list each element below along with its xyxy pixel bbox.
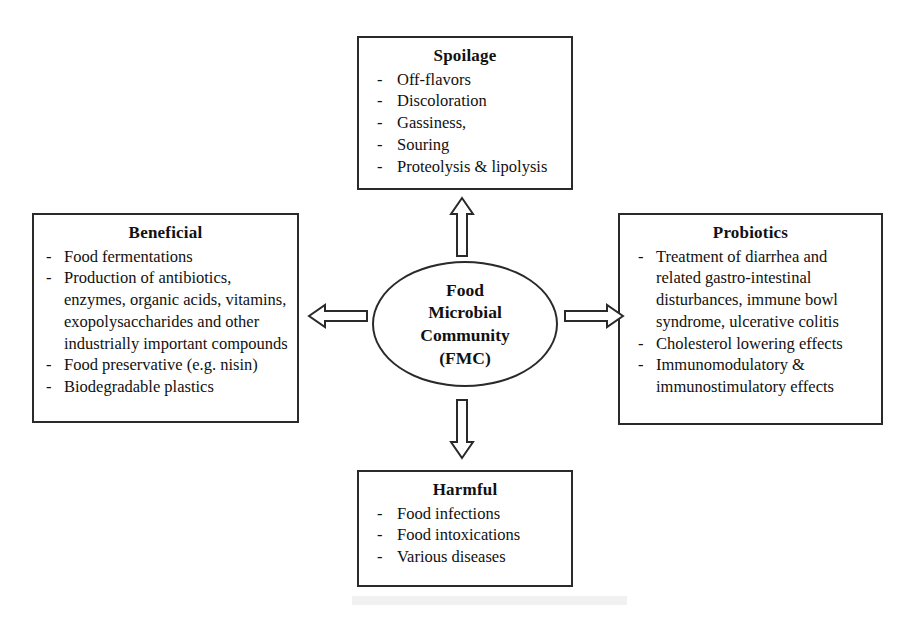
bullet-marker-icon: -	[377, 90, 383, 112]
diagram-canvas: Spoilage - Off-flavors - Discoloration -…	[0, 0, 910, 628]
node-box-probiotics: Probiotics - Treatment of diarrhea and r…	[618, 213, 883, 425]
bullet-marker-icon: -	[377, 69, 383, 91]
bullet-list-beneficial: - Food fermentations - Production of ant…	[42, 246, 289, 398]
bullet-marker-icon: -	[46, 354, 52, 376]
list-item-label: Various diseases	[397, 547, 506, 566]
node-box-spoilage: Spoilage - Off-flavors - Discoloration -…	[357, 36, 573, 190]
bullet-marker-icon: -	[638, 333, 644, 355]
bullet-marker-icon: -	[377, 546, 383, 568]
list-item: - Food preservative (e.g. nisin)	[42, 354, 289, 376]
list-item-label: Cholesterol lowering effects	[656, 334, 843, 353]
bullet-marker-icon: -	[46, 376, 52, 398]
list-item: - Proteolysis & lipolysis	[367, 156, 563, 178]
node-box-harmful: Harmful - Food infections - Food intoxic…	[357, 470, 573, 587]
list-item-label: Gassiness,	[397, 113, 466, 132]
list-item: - Biodegradable plastics	[42, 376, 289, 398]
bullet-marker-icon: -	[377, 112, 383, 134]
list-item: - Off-flavors	[367, 69, 563, 91]
bullet-list-harmful: - Food infections - Food intoxications -…	[367, 503, 563, 568]
list-item-label: Production of antibiotics, enzymes, orga…	[64, 268, 288, 352]
node-title-harmful: Harmful	[367, 480, 563, 500]
bullet-marker-icon: -	[377, 134, 383, 156]
list-item: - Treatment of diarrhea and related gast…	[628, 246, 873, 333]
bullet-marker-icon: -	[638, 246, 644, 268]
bullet-marker-icon: -	[46, 246, 52, 268]
bullet-marker-icon: -	[377, 524, 383, 546]
bullet-list-probiotics: - Treatment of diarrhea and related gast…	[628, 246, 873, 398]
caption-scan-artifact	[352, 596, 627, 605]
bullet-marker-icon: -	[46, 267, 52, 289]
bullet-marker-icon: -	[377, 503, 383, 525]
arrow-left-icon	[307, 303, 369, 329]
list-item-label: Proteolysis & lipolysis	[397, 157, 547, 176]
node-box-beneficial: Beneficial - Food fermentations - Produc…	[32, 213, 299, 423]
list-item: - Food infections	[367, 503, 563, 525]
bullet-list-spoilage: - Off-flavors - Discoloration - Gassines…	[367, 69, 563, 178]
list-item-label: Souring	[397, 135, 449, 154]
list-item: - Production of antibiotics, enzymes, or…	[42, 267, 289, 354]
list-item: - Discoloration	[367, 90, 563, 112]
bullet-marker-icon: -	[377, 156, 383, 178]
list-item-label: Food intoxications	[397, 525, 520, 544]
node-title-spoilage: Spoilage	[367, 46, 563, 66]
list-item: - Various diseases	[367, 546, 563, 568]
list-item: - Food intoxications	[367, 524, 563, 546]
list-item: - Immunomodulatory & immunostimulatory e…	[628, 354, 873, 398]
arrow-right-icon	[563, 303, 625, 329]
list-item-label: Food preservative (e.g. nisin)	[64, 355, 258, 374]
arrow-down-icon	[449, 398, 475, 460]
node-title-beneficial: Beneficial	[42, 223, 289, 243]
node-title-probiotics: Probiotics	[628, 223, 873, 243]
list-item-label: Immunomodulatory & immunostimulatory eff…	[656, 355, 834, 396]
list-item-label: Food fermentations	[64, 247, 193, 266]
list-item: - Cholesterol lowering effects	[628, 333, 873, 355]
bullet-marker-icon: -	[638, 354, 644, 376]
center-node-label: Food Microbial Community (FMC)	[420, 279, 509, 370]
list-item-label: Biodegradable plastics	[64, 377, 214, 396]
list-item-label: Treatment of diarrhea and related gastro…	[656, 247, 839, 331]
list-item-label: Food infections	[397, 504, 500, 523]
arrow-up-icon	[449, 196, 475, 258]
list-item: - Food fermentations	[42, 246, 289, 268]
list-item-label: Discoloration	[397, 91, 487, 110]
center-node-ellipse: Food Microbial Community (FMC)	[372, 261, 558, 387]
list-item-label: Off-flavors	[397, 70, 471, 89]
list-item: - Souring	[367, 134, 563, 156]
list-item: - Gassiness,	[367, 112, 563, 134]
